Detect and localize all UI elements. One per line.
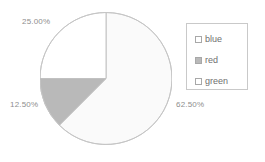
pie-chart-plot-area [40,12,172,145]
data-label-blue: 62.50% [176,101,204,109]
legend-label-blue: blue [205,35,222,44]
legend-item-blue[interactable]: blue [195,30,247,48]
legend-swatch-green-icon [195,78,202,85]
legend-swatch-red-icon [195,57,202,64]
legend-item-green[interactable]: green [195,72,247,90]
legend-label-red: red [205,56,218,65]
data-label-red: 12.50% [10,101,38,109]
data-label-green: 25.00% [22,18,50,26]
pie-svg [40,12,172,145]
legend: blue red green [186,23,248,90]
legend-item-red[interactable]: red [195,51,247,69]
legend-swatch-blue-icon [195,36,202,43]
legend-label-green: green [205,77,228,86]
pie-chart-figure: 25.00% 12.50% 62.50% blue red green [0,0,265,162]
